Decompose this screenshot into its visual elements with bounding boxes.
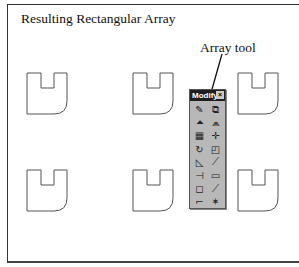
array-icon[interactable]: ▦ bbox=[192, 129, 208, 142]
array-shape bbox=[238, 73, 278, 114]
trim-icon[interactable]: ⟋ bbox=[208, 156, 224, 169]
array-shape bbox=[133, 73, 173, 114]
chamfer-icon[interactable]: ◻ bbox=[192, 182, 208, 195]
drawing-canvas bbox=[0, 0, 299, 267]
offset-icon[interactable]: ⩕ bbox=[208, 116, 224, 129]
explode-icon[interactable]: ✶ bbox=[208, 195, 224, 208]
scale-icon[interactable]: ◰ bbox=[208, 143, 224, 156]
copy-icon[interactable]: ⧉ bbox=[208, 103, 224, 116]
array-shapes bbox=[27, 73, 278, 211]
fillet-icon[interactable]: ⟋ bbox=[208, 182, 224, 195]
close-icon[interactable]: × bbox=[216, 91, 224, 99]
toolbar-title: Modify bbox=[192, 91, 218, 100]
array-shape bbox=[133, 170, 173, 211]
rotate-icon[interactable]: ↻ bbox=[192, 143, 208, 156]
erase-icon[interactable]: ✎ bbox=[192, 103, 208, 116]
array-shape bbox=[27, 170, 67, 211]
extend-icon[interactable]: ⊣ bbox=[192, 169, 208, 182]
mirror-icon[interactable]: ⏶ bbox=[192, 116, 208, 129]
array-shape bbox=[27, 73, 67, 114]
modify-toolbar[interactable]: Modify × ✎⧉⏶⩕▦✛↻◰◺⟋⊣▭◻⟋⌐✶ bbox=[189, 89, 226, 209]
array-shape bbox=[238, 170, 278, 211]
toolbar-buttons: ✎⧉⏶⩕▦✛↻◰◺⟋⊣▭◻⟋⌐✶ bbox=[190, 101, 225, 209]
toolbar-titlebar[interactable]: Modify × bbox=[190, 90, 225, 101]
move-icon[interactable]: ✛ bbox=[208, 129, 224, 142]
lengthen-icon[interactable]: ⌐ bbox=[192, 195, 208, 208]
stretch-icon[interactable]: ◺ bbox=[192, 156, 208, 169]
break-icon[interactable]: ▭ bbox=[208, 169, 224, 182]
